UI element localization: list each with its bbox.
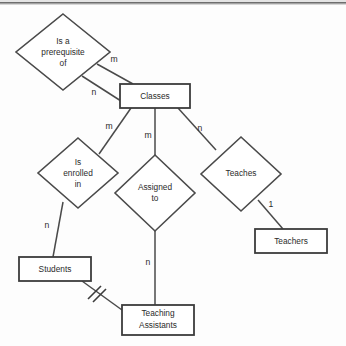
relationship-enrolled-label-line3: in (75, 179, 82, 189)
edge-students-tas (82, 281, 122, 310)
cardinality-teaches-teachers-1: 1 (269, 199, 274, 209)
relationship-prereq-label-line2: prerequisite (41, 47, 85, 57)
edge-prereq-classes-m (97, 64, 133, 84)
entity-teaching-assistants-label-line2: Assistants (139, 320, 177, 330)
relationship-prereq[interactable]: Is a prerequisite of (16, 14, 110, 90)
relationship-assigned-label-line1: Assigned (138, 182, 173, 192)
entity-students-label: Students (39, 264, 72, 274)
scan-artifact-top-band (0, 0, 346, 5)
relationship-teaches-label: Teaches (226, 168, 257, 178)
entity-students[interactable]: Students (19, 257, 91, 281)
entity-classes[interactable]: Classes (120, 84, 190, 108)
cardinality-prereq-classes-n: n (92, 87, 97, 97)
relationship-enrolled-label-line2: enrolled (63, 168, 93, 178)
double-hash-mark-icon (88, 286, 106, 302)
cardinality-assigned-tas-n: n (146, 257, 151, 267)
edge-enrolled-students (53, 202, 63, 257)
relationship-prereq-label-line3: of (60, 58, 68, 68)
relationship-prereq-label-line1: Is a (56, 36, 70, 46)
relationship-assigned-label-line2: to (152, 193, 159, 203)
er-diagram-svg: Is a prerequisite of Is enrolled in Assi… (0, 0, 346, 346)
entity-teachers-label: Teachers (274, 236, 308, 246)
entity-teaching-assistants-label-line1: Teaching (141, 308, 175, 318)
edge-classes-enrolled (99, 108, 131, 154)
relationship-enrolled[interactable]: Is enrolled in (38, 138, 118, 208)
cardinality-prereq-classes-m: m (110, 54, 117, 64)
entity-classes-label: Classes (140, 91, 170, 101)
entity-teachers[interactable]: Teachers (255, 229, 327, 253)
er-diagram-canvas: Is a prerequisite of Is enrolled in Assi… (0, 0, 346, 346)
cardinality-classes-assigned-m: m (144, 130, 151, 140)
relationship-enrolled-label-line1: Is (75, 157, 81, 167)
entity-teaching-assistants[interactable]: Teaching Assistants (122, 305, 194, 335)
cardinality-classes-teaches-n: n (198, 123, 203, 133)
cardinality-enrolled-students-n: n (45, 220, 50, 230)
edge-prereq-classes-n (82, 76, 121, 101)
cardinality-classes-enrolled-m: m (105, 121, 112, 131)
relationship-assigned[interactable]: Assigned to (115, 155, 195, 231)
